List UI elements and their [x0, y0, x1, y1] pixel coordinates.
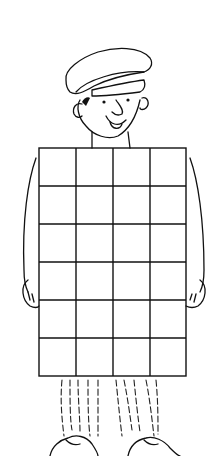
arms: [23, 158, 205, 308]
face: [73, 97, 148, 148]
cap-icon: [66, 48, 152, 96]
illustration: [0, 0, 218, 456]
legs: [61, 380, 158, 436]
shoes: [50, 436, 180, 456]
grid-board: [39, 148, 186, 376]
